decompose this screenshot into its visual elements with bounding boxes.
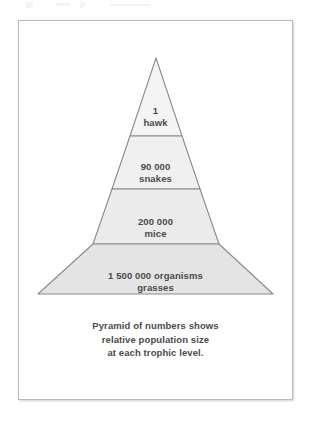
figure-caption: Pyramid of numbers shows relative popula… <box>19 319 292 360</box>
scan-artifact-mark <box>56 3 70 6</box>
scan-artifact-mark <box>110 4 150 6</box>
scan-artifact-mark <box>79 2 86 8</box>
pyramid-tier-mice <box>93 189 219 244</box>
figure-frame: 1 hawk 90 000 snakes 200 000 mice 1 500 … <box>18 20 293 400</box>
scan-artifact-mark <box>26 2 33 8</box>
pyramid-tier-grasses <box>38 244 273 294</box>
pyramid-tier-hawk <box>130 58 182 136</box>
caption-line-3: at each trophic level. <box>19 346 292 360</box>
pyramid-svg <box>19 21 292 301</box>
caption-line-1: Pyramid of numbers shows <box>19 319 292 333</box>
caption-line-2: relative population size <box>19 333 292 347</box>
scan-artifacts <box>0 0 310 14</box>
pyramid-diagram: 1 hawk 90 000 snakes 200 000 mice 1 500 … <box>19 21 292 301</box>
pyramid-tier-snakes <box>112 136 200 189</box>
